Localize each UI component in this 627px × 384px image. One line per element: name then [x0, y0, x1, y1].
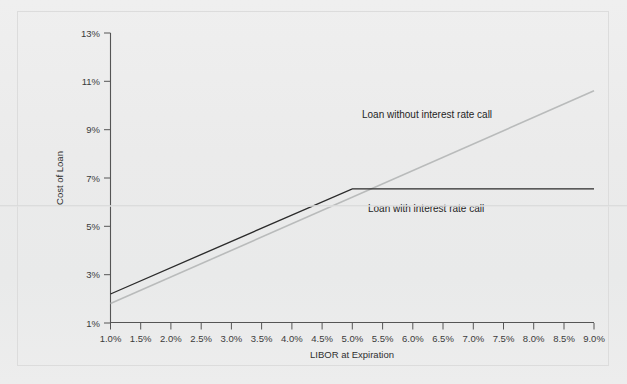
annotation-loan-without-call: Loan without interest rate call: [362, 109, 492, 120]
y-tick-label: 7%: [86, 173, 100, 184]
x-tick-label: 4.5%: [311, 333, 333, 344]
x-axis-ticks: [111, 323, 595, 330]
y-tick-label: 13%: [81, 28, 101, 39]
x-tick-label: 7.5%: [493, 333, 515, 344]
x-tick-label: 6.5%: [432, 333, 454, 344]
figure-page: 13% 11% 9% 7% 5% 3% 1%: [0, 0, 627, 384]
y-axis-tick-labels: 13% 11% 9% 7% 5% 3% 1%: [81, 28, 101, 329]
x-tick-label: 6.0%: [402, 333, 424, 344]
x-tick-label: 8.5%: [553, 333, 575, 344]
series-loan-without-call: [111, 91, 595, 304]
x-tick-label: 5.5%: [372, 333, 394, 344]
y-tick-label: 5%: [86, 221, 100, 232]
line-chart: 13% 11% 9% 7% 5% 3% 1%: [0, 0, 627, 384]
x-tick-label: 2.0%: [160, 333, 182, 344]
y-tick-label: 3%: [86, 269, 100, 280]
x-tick-label: 3.0%: [221, 333, 243, 344]
y-tick-label: 1%: [86, 318, 100, 329]
x-axis-tick-labels: 1.0% 1.5% 2.0% 2.5% 3.0% 3.5% 4.0% 4.5% …: [100, 333, 606, 344]
y-tick-label: 9%: [86, 124, 100, 135]
x-tick-label: 8.0%: [523, 333, 545, 344]
x-tick-label: 1.0%: [100, 333, 122, 344]
scan-artifact-line-secondary: [0, 206, 627, 207]
x-tick-label: 4.0%: [281, 333, 303, 344]
x-tick-label: 3.5%: [251, 333, 273, 344]
x-tick-label: 1.5%: [130, 333, 152, 344]
y-axis-title: Cost of Loan: [54, 151, 65, 205]
y-axis-ticks: [104, 33, 111, 323]
x-axis-title: LIBOR at Expiration: [310, 349, 394, 360]
x-tick-label: 9.0%: [583, 333, 605, 344]
x-tick-label: 5.0%: [341, 333, 363, 344]
x-tick-label: 7.0%: [462, 333, 484, 344]
y-tick-label: 11%: [82, 76, 101, 87]
chart-plot-area: 13% 11% 9% 7% 5% 3% 1%: [0, 0, 627, 384]
x-tick-label: 2.5%: [190, 333, 212, 344]
